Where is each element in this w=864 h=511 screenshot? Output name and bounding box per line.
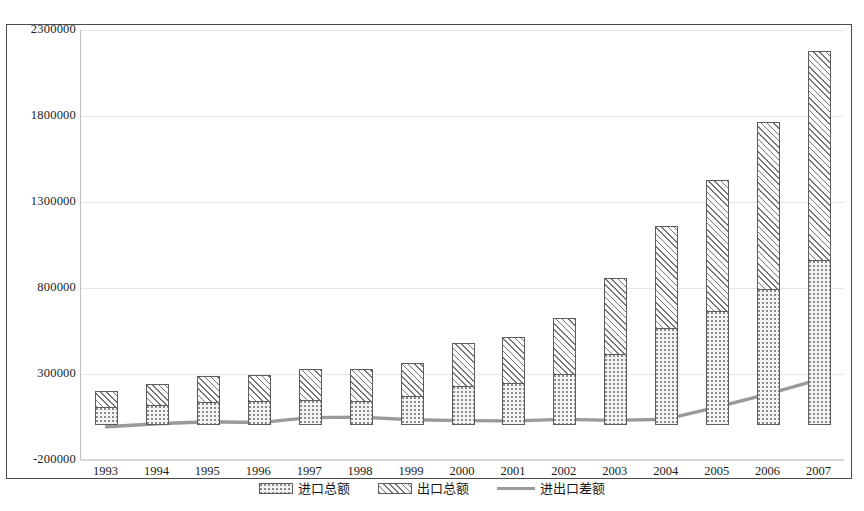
bar-group[interactable]	[502, 337, 525, 425]
gray-line-swatch-icon	[497, 487, 535, 490]
bar-group[interactable]	[95, 391, 118, 425]
legend-label: 进口总额	[298, 482, 350, 495]
plot-area	[80, 30, 844, 460]
bar-segment-import[interactable]	[248, 401, 271, 425]
bar-segment-export[interactable]	[248, 375, 271, 401]
y-tick-label: -200000	[33, 452, 76, 467]
bar-segment-export[interactable]	[808, 51, 831, 260]
bar-segment-export[interactable]	[197, 376, 220, 402]
x-tick-label: 1996	[233, 464, 284, 479]
bar-segment-import[interactable]	[655, 328, 678, 424]
bar-group[interactable]	[808, 51, 831, 425]
bar-group[interactable]	[401, 363, 424, 425]
bar-group[interactable]	[248, 375, 271, 425]
x-tick-label: 1997	[284, 464, 335, 479]
bar-segment-export[interactable]	[706, 180, 729, 311]
x-tick-label: 1995	[182, 464, 233, 479]
gridline	[81, 30, 844, 31]
bar-segment-export[interactable]	[350, 369, 373, 401]
bar-segment-export[interactable]	[604, 278, 627, 353]
bar-group[interactable]	[604, 278, 627, 424]
x-tick-label: 2001	[487, 464, 538, 479]
bar-group[interactable]	[452, 343, 475, 425]
gridline	[81, 460, 844, 461]
bar-group[interactable]	[706, 180, 729, 425]
bar-segment-import[interactable]	[808, 260, 831, 424]
x-tick-label: 1994	[131, 464, 182, 479]
bar-segment-export[interactable]	[146, 384, 169, 405]
bar-segment-export[interactable]	[95, 391, 118, 407]
bar-group[interactable]	[757, 122, 780, 425]
y-tick-label: 300000	[37, 366, 76, 381]
bar-group[interactable]	[553, 318, 576, 425]
bar-segment-import[interactable]	[95, 407, 118, 425]
hatched-bar-swatch-icon	[378, 483, 412, 494]
bar-group[interactable]	[350, 369, 373, 425]
bar-segment-import[interactable]	[350, 401, 373, 425]
bar-segment-import[interactable]	[757, 289, 780, 425]
x-tick-label: 2006	[742, 464, 793, 479]
x-tick-label: 1999	[386, 464, 437, 479]
legend-label: 进出口差额	[540, 482, 605, 495]
bar-group[interactable]	[146, 384, 169, 425]
x-tick-label: 2005	[691, 464, 742, 479]
y-axis-labels: 230000018000001300000800000300000-200000	[6, 30, 76, 460]
bar-group[interactable]	[197, 376, 220, 424]
y-tick-label: 2300000	[31, 22, 76, 37]
x-tick-label: 1993	[80, 464, 131, 479]
chart-figure: 230000018000001300000800000300000-200000…	[0, 0, 864, 511]
legend-item[interactable]: 进出口差额	[497, 482, 605, 495]
x-tick-label: 1998	[335, 464, 386, 479]
bar-segment-import[interactable]	[502, 383, 525, 425]
x-tick-label: 2000	[437, 464, 488, 479]
gridline	[81, 288, 844, 289]
bar-segment-export[interactable]	[757, 122, 780, 289]
bar-segment-import[interactable]	[197, 402, 220, 425]
bar-segment-import[interactable]	[401, 396, 424, 425]
x-tick-label: 2004	[640, 464, 691, 479]
bar-segment-import[interactable]	[146, 405, 169, 425]
bar-group[interactable]	[299, 369, 322, 425]
dotted-bar-swatch-icon	[259, 483, 293, 494]
bar-segment-import[interactable]	[299, 400, 322, 424]
x-tick-label: 2003	[589, 464, 640, 479]
chart-legend: 进口总额出口总额进出口差额	[0, 482, 864, 495]
gridline	[81, 116, 844, 117]
x-tick-label: 2007	[793, 464, 844, 479]
legend-item[interactable]: 进口总额	[259, 482, 350, 495]
legend-label: 出口总额	[417, 482, 469, 495]
bar-segment-export[interactable]	[655, 226, 678, 328]
bar-segment-export[interactable]	[452, 343, 475, 386]
y-tick-label: 1300000	[31, 194, 76, 209]
bar-segment-import[interactable]	[553, 374, 576, 425]
bar-segment-export[interactable]	[299, 369, 322, 400]
bar-segment-import[interactable]	[452, 386, 475, 425]
y-tick-label: 800000	[37, 280, 76, 295]
legend-item[interactable]: 出口总额	[378, 482, 469, 495]
bar-segment-export[interactable]	[502, 337, 525, 383]
bar-segment-import[interactable]	[706, 311, 729, 425]
bar-segment-export[interactable]	[401, 363, 424, 397]
bar-group[interactable]	[655, 226, 678, 424]
bar-segment-export[interactable]	[553, 318, 576, 374]
x-tick-label: 2002	[538, 464, 589, 479]
y-tick-label: 1800000	[31, 108, 76, 123]
bar-segment-import[interactable]	[604, 354, 627, 425]
gridline	[81, 202, 844, 203]
